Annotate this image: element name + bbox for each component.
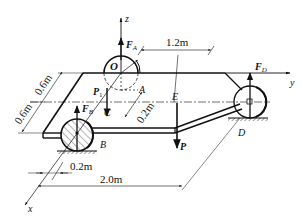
force-fb-label: FB <box>81 103 94 116</box>
z-axis-label: z <box>124 13 129 24</box>
x-axis-label: x <box>27 203 33 214</box>
force-p-label: P <box>180 141 187 152</box>
dim-0-6m-lower-label: 0.6m <box>12 101 35 127</box>
wheel-d <box>228 86 268 121</box>
point-d-label: D <box>237 127 246 138</box>
point-a-label: A <box>138 84 146 95</box>
dim-0-6m-upper-label: 0.6m <box>32 72 55 98</box>
dim-2-0m-label: 2.0m <box>100 173 123 185</box>
force-fa-label: FA <box>125 39 138 52</box>
cart-mechanics-diagram: z y x O A FA P1 C FB B <box>0 0 308 221</box>
point-e-label: E <box>171 91 178 102</box>
point-o-label: O <box>110 60 118 72</box>
arm-top <box>175 104 240 128</box>
dim-0-2m-mid-label: 0.2m <box>134 100 157 126</box>
dim-0-2m-bottom-label: 0.2m <box>70 160 93 172</box>
y-axis-label: y <box>289 77 295 88</box>
dim-1-2m-label: 1.2m <box>166 36 189 48</box>
point-b-label: B <box>100 139 106 150</box>
axes: z y x <box>25 13 295 214</box>
force-fd-label: FD <box>254 61 267 74</box>
force-p1-label: P1 <box>93 86 103 99</box>
platform-right-edge <box>225 73 242 90</box>
point-c-label: C <box>104 107 111 118</box>
